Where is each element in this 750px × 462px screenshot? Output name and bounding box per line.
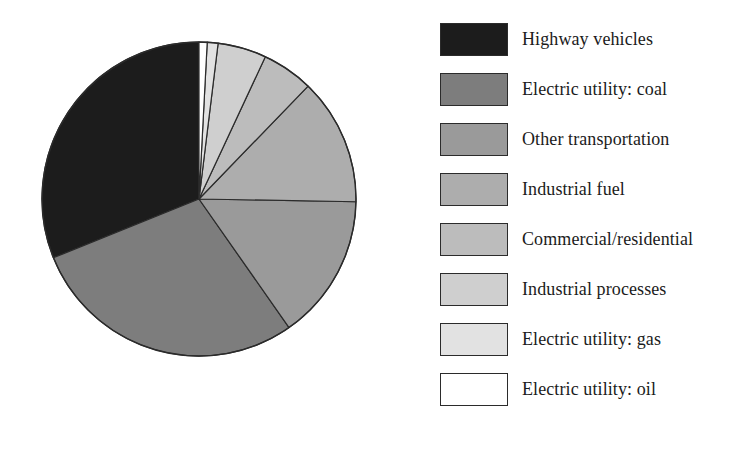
legend-swatch bbox=[440, 373, 508, 406]
legend-item[interactable]: Industrial fuel bbox=[440, 164, 750, 214]
legend-swatch bbox=[440, 73, 508, 106]
legend-item-label: Industrial processes bbox=[522, 280, 666, 299]
legend-item[interactable]: Electric utility: coal bbox=[440, 64, 750, 114]
legend-item-label: Other transportation bbox=[522, 130, 669, 149]
legend-swatch bbox=[440, 323, 508, 356]
legend-swatch bbox=[440, 123, 508, 156]
pie-chart-svg bbox=[0, 0, 400, 462]
legend-item-label: Highway vehicles bbox=[522, 30, 653, 49]
legend-item[interactable]: Electric utility: oil bbox=[440, 364, 750, 414]
legend-swatch bbox=[440, 173, 508, 206]
chart-legend: Highway vehiclesElectric utility: coalOt… bbox=[440, 14, 750, 454]
legend-item-label: Electric utility: oil bbox=[522, 380, 656, 399]
legend-swatch bbox=[440, 23, 508, 56]
legend-item-label: Commercial/residential bbox=[522, 230, 693, 249]
legend-swatch bbox=[440, 223, 508, 256]
legend-item-label: Industrial fuel bbox=[522, 180, 625, 199]
legend-item[interactable]: Electric utility: gas bbox=[440, 314, 750, 364]
legend-item[interactable]: Other transportation bbox=[440, 114, 750, 164]
legend-item-label: Electric utility: gas bbox=[522, 330, 661, 349]
pie-chart-figure: Highway vehiclesElectric utility: coalOt… bbox=[0, 0, 750, 462]
legend-swatch bbox=[440, 273, 508, 306]
legend-item[interactable]: Industrial processes bbox=[440, 264, 750, 314]
legend-item-label: Electric utility: coal bbox=[522, 80, 667, 99]
legend-item[interactable]: Highway vehicles bbox=[440, 14, 750, 64]
legend-item[interactable]: Commercial/residential bbox=[440, 214, 750, 264]
pie-plot-area bbox=[0, 0, 400, 462]
